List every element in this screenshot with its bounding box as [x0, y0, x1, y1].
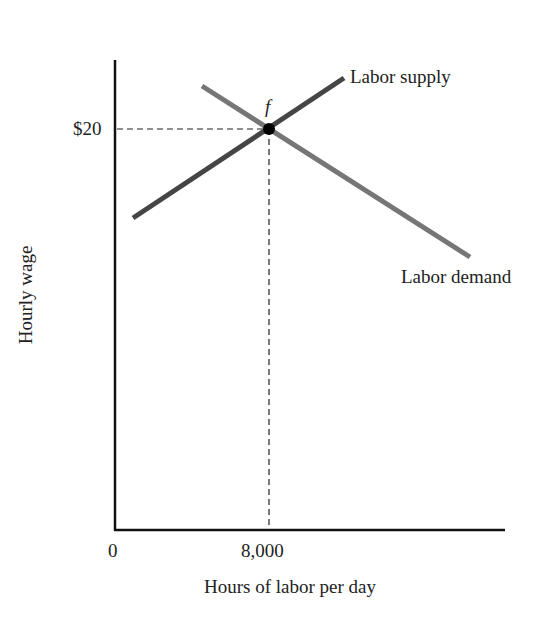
labor-demand-line: [202, 86, 470, 257]
supply-label: Labor supply: [350, 66, 451, 88]
x-axis-title: Hours of labor per day: [204, 576, 376, 598]
x-tick-origin: 0: [108, 540, 118, 562]
x-tick-8000: 8,000: [241, 540, 284, 562]
equilibrium-point: [263, 123, 275, 135]
labor-supply-line: [133, 78, 344, 218]
labor-market-chart: f Labor supply Labor demand $20 0 8,000 …: [0, 0, 558, 625]
y-axis-title: Hourly wage: [15, 246, 37, 345]
chart-canvas: [0, 0, 558, 625]
equilibrium-label: f: [265, 96, 270, 118]
y-tick-20: $20: [73, 118, 102, 140]
demand-label: Labor demand: [401, 266, 511, 288]
